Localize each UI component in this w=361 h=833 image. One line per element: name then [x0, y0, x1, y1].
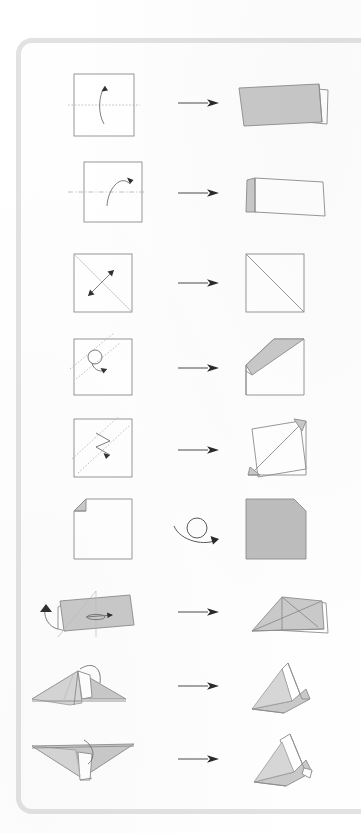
step-2-after-figure: white tent shape with small gray triangl… [235, 172, 335, 222]
step-6-before-figure: white square with small gray folded corn… [70, 495, 138, 565]
origami-step-3: square sheet with diagonal crease and do… [30, 250, 350, 326]
step-4-arrow-icon: straight-arrow-right [178, 361, 220, 375]
origami-step-9: inverted gray triangle with head crease … [30, 728, 350, 794]
step-8-arrow-icon: straight-arrow-right [178, 679, 220, 693]
origami-step-list: square sheet with horizontal valley crea… [0, 0, 361, 833]
step-2-arrow-icon: straight-arrow-right [178, 186, 220, 200]
origami-step-5: square sheet with two parallel diagonal … [30, 415, 350, 491]
origami-step-4: square sheet with diagonal creases, rota… [30, 335, 350, 407]
step-4-before-figure: square sheet with diagonal creases, rota… [70, 335, 138, 399]
step-6-after-figure: solid gray square with clipped top-right… [242, 495, 312, 565]
step-5-after-figure: square with diagonal crease and small gr… [242, 415, 314, 485]
step-3-before-figure: square sheet with diagonal crease and do… [70, 250, 138, 316]
step-2-before-figure: square sheet with horizontal mountain cr… [76, 158, 146, 230]
step-8-before-figure: flat gray triangle with neck crease and … [30, 655, 155, 717]
document-page: square sheet with horizontal valley crea… [0, 0, 361, 833]
step-7-before-figure: gray parallelogram with creases and flip… [30, 585, 150, 643]
step-9-after-figure: finished bird with head folded down [248, 728, 338, 792]
step-4-after-figure: square with gray diagonal band folded at… [242, 335, 312, 399]
step-6-turnover-arrow-icon: turn-over-loop-arrow [172, 515, 226, 553]
step-8-after-figure: bird form with raised neck and head [248, 655, 338, 719]
origami-step-8: flat gray triangle with neck crease and … [30, 655, 350, 721]
step-7-after-figure: flattened gray triangular preliminary fo… [238, 593, 338, 641]
origami-step-7: gray parallelogram with creases and flip… [30, 585, 350, 647]
step-3-after-figure: white square with diagonal crease line [242, 250, 310, 316]
step-5-before-figure: square sheet with two parallel diagonal … [70, 415, 138, 483]
origami-step-6: white square with small gray folded corn… [30, 495, 350, 571]
step-7-arrow-icon: straight-arrow-right [178, 605, 220, 619]
step-1-after-figure: gray parallelogram with white triangular… [235, 82, 335, 134]
step-1-arrow-icon: straight-arrow-right [178, 96, 220, 110]
origami-step-2: square sheet with horizontal mountain cr… [30, 158, 350, 238]
origami-step-1: square sheet with horizontal valley crea… [30, 70, 350, 150]
step-9-arrow-icon: straight-arrow-right [178, 752, 220, 766]
step-9-before-figure: inverted gray triangle with head crease … [30, 728, 160, 790]
step-3-arrow-icon: straight-arrow-right [178, 276, 220, 290]
step-5-arrow-icon: straight-arrow-right [178, 443, 220, 457]
step-1-before-figure: square sheet with horizontal valley crea… [70, 70, 138, 142]
